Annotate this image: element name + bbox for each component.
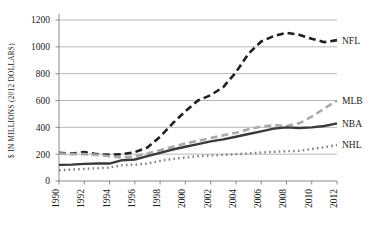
x-axis-tick-label: 1998: [152, 189, 162, 208]
x-axis-tick-label: 1994: [102, 189, 112, 208]
y-axis-tick-label: 0: [45, 176, 50, 186]
x-axis-tick-label: 2012: [329, 189, 339, 208]
chart-container: 0200400600800100012001990199219941996199…: [0, 0, 380, 233]
series-label-mlb: MLB: [342, 96, 363, 106]
y-axis-tick-label: 1200: [31, 15, 50, 25]
series-line-nhl: [59, 145, 337, 170]
series-line-nfl: [59, 33, 337, 155]
series-label-nba: NBA: [342, 119, 362, 129]
x-axis-tick-label: 2004: [228, 189, 238, 208]
y-axis-tick-label: 600: [36, 96, 51, 106]
x-axis-tick-label: 2006: [253, 189, 263, 208]
series-label-nhl: NHL: [342, 140, 362, 150]
x-axis-tick-label: 2010: [304, 189, 314, 208]
x-axis-tick-label: 2008: [278, 189, 288, 208]
line-chart: 0200400600800100012001990199219941996199…: [0, 0, 380, 233]
y-axis-title: $ IN MILLIONS (2012 DOLLARS): [8, 43, 16, 158]
x-axis-tick-label: 1996: [127, 189, 137, 208]
y-axis-tick-label: 400: [36, 123, 51, 133]
x-axis-tick-label: 2000: [177, 189, 187, 208]
x-axis-tick-label: 1992: [76, 189, 86, 208]
series-line-mlb: [59, 101, 337, 158]
y-axis-tick-label: 800: [36, 69, 51, 79]
x-axis-tick-label: 2002: [203, 189, 213, 208]
x-axis-tick-label: 1990: [51, 189, 61, 208]
y-axis-tick-label: 1000: [31, 42, 50, 52]
y-axis-tick-label: 200: [36, 150, 51, 160]
series-line-nba: [59, 123, 337, 165]
series-label-nfl: NFL: [342, 36, 360, 46]
